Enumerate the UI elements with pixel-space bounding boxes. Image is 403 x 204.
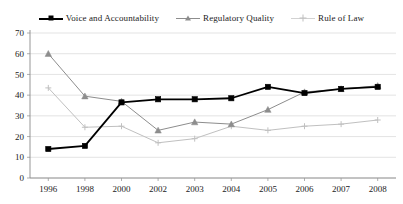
series-line	[48, 54, 377, 131]
data-point-marker	[375, 117, 381, 123]
y-axis-tick-label: 50	[15, 70, 25, 80]
data-point-marker	[375, 84, 380, 89]
top-text-bleed: g p p g	[0, 0, 403, 8]
y-axis-tick-label: 30	[15, 111, 25, 121]
chart-legend: Voice and Accountability Regulatory Qual…	[0, 11, 403, 25]
line-chart: g p p g Voice and Accountability Regulat…	[0, 0, 403, 204]
x-axis-tick-label: 2008	[369, 184, 388, 194]
series-voice-and-accountability	[46, 84, 381, 151]
x-axis-tick-label: 2002	[149, 184, 167, 194]
axis-lines	[27, 30, 396, 181]
series-line	[48, 88, 377, 143]
x-axis-tick-label: 2000	[113, 184, 132, 194]
series-line	[48, 87, 377, 149]
legend-item-voice-and-accountability[interactable]: Voice and Accountability	[39, 14, 159, 23]
plot-area: 010203040506070 199619982000200220032004…	[0, 26, 403, 204]
x-axis-tick-label: 2006	[296, 184, 315, 194]
data-point-marker	[265, 127, 271, 133]
x-axis-tick-label: 1996	[39, 184, 58, 194]
y-axis-tick-label: 60	[15, 49, 25, 59]
data-point-marker	[302, 90, 307, 95]
plot-svg: 010203040506070 199619982000200220032004…	[0, 26, 403, 204]
data-point-marker	[82, 143, 87, 148]
x-axis-tick-label: 2005	[259, 184, 278, 194]
data-point-marker	[156, 97, 161, 102]
legend-label-regulatory-quality: Regulatory Quality	[203, 14, 274, 23]
y-axis-tick-labels: 010203040506070	[15, 28, 25, 183]
legend-swatch-triangle	[176, 14, 200, 23]
legend-label-voice-and-accountability: Voice and Accountability	[66, 14, 159, 23]
legend-swatch-square	[39, 14, 63, 23]
data-point-marker	[119, 100, 124, 105]
data-point-marker	[265, 84, 270, 89]
gridlines	[30, 33, 396, 178]
data-point-marker	[229, 96, 234, 101]
data-point-marker	[192, 97, 197, 102]
data-point-marker	[339, 86, 344, 91]
data-point-marker	[155, 140, 161, 146]
x-axis-tick-label: 2003	[186, 184, 205, 194]
x-axis-tick-label: 1998	[76, 184, 95, 194]
x-axis-tick-label: 2004	[222, 184, 241, 194]
data-point-marker	[119, 123, 125, 129]
data-point-marker	[46, 146, 51, 151]
data-point-marker	[302, 123, 308, 129]
legend-item-regulatory-quality[interactable]: Regulatory Quality	[176, 14, 274, 23]
y-axis-tick-label: 10	[15, 152, 25, 162]
y-axis-tick-label: 70	[15, 28, 25, 38]
x-axis-tick-labels: 1996199820002002200320042005200620072008	[39, 184, 387, 194]
data-point-marker	[265, 106, 271, 112]
y-axis-tick-label: 0	[20, 173, 25, 183]
x-axis-tick-label: 2007	[332, 184, 351, 194]
legend-label-rule-of-law: Rule of Law	[318, 14, 364, 23]
legend-item-rule-of-law[interactable]: Rule of Law	[291, 14, 364, 23]
y-axis-tick-label: 20	[15, 132, 25, 142]
data-point-marker	[338, 121, 344, 127]
legend-swatch-plus	[291, 14, 315, 23]
y-axis-tick-label: 40	[15, 90, 25, 100]
series-regulatory-quality	[45, 51, 381, 134]
